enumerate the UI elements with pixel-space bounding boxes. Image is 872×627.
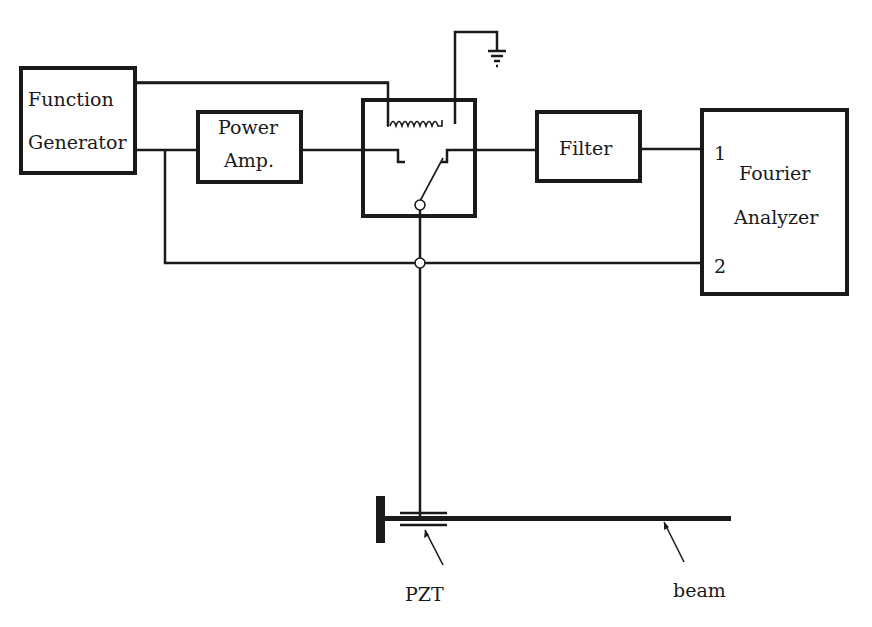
analyzer-input-2-label: 2 xyxy=(714,255,726,277)
power-amp-label-line1: Power xyxy=(218,116,279,138)
beam xyxy=(385,516,731,521)
cantilever-beam xyxy=(376,496,731,543)
analyzer-input-1-label: 1 xyxy=(714,142,726,164)
filter-label: Filter xyxy=(559,137,613,159)
power-amp-label-line2: Amp. xyxy=(223,149,274,171)
function-generator-label-line1: Function xyxy=(28,88,114,110)
power-amp-block: Power Amp. xyxy=(198,112,301,182)
switch-left-contact xyxy=(301,150,405,162)
function-generator-label-line2: Generator xyxy=(28,131,127,153)
wire-crossover xyxy=(415,258,425,268)
beam-label: beam xyxy=(673,579,726,601)
fourier-analyzer-label-line1: Fourier xyxy=(739,162,811,184)
relay-coil-icon xyxy=(135,82,442,127)
relay-switch-block xyxy=(135,32,537,216)
switch-pivot-terminal xyxy=(415,200,425,210)
fourier-analyzer-label-line2: Analyzer xyxy=(733,206,819,228)
beam-clamp xyxy=(376,496,385,543)
switch-right-contact xyxy=(441,150,537,162)
switch-arm xyxy=(420,158,443,201)
filter-block: Filter xyxy=(537,112,640,181)
measurement-setup-diagram: Function Generator Power Amp. F xyxy=(0,0,872,627)
function-generator-block: Function Generator xyxy=(21,68,135,173)
fourier-analyzer-block: 1 Fourier Analyzer 2 xyxy=(702,110,847,294)
ground-icon xyxy=(488,51,506,66)
pzt-label: PZT xyxy=(405,583,444,605)
